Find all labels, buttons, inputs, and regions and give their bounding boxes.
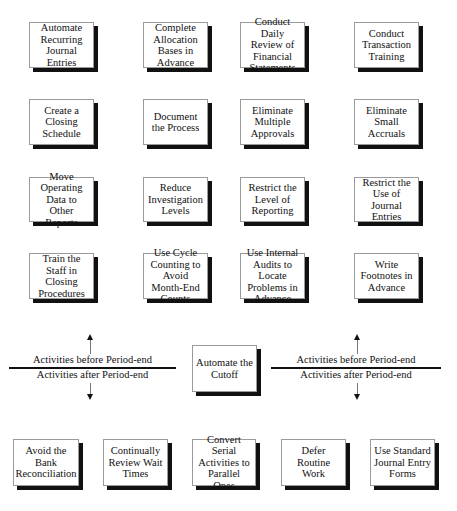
box-label: Write Footnotes in Advance [358, 259, 415, 294]
box-use-cycle-counting: Use Cycle Counting to Avoid Month-End Co… [143, 253, 208, 299]
arrow-up-icon [87, 334, 93, 340]
box-create-closing-schedule: Create a Closing Schedule [29, 99, 94, 145]
box-label: Reduce Investigation Levels [147, 182, 204, 217]
box-move-operating-data: Move Operating Data to Other Reports [29, 177, 94, 222]
box-eliminate-multiple-approvals: Eliminate Multiple Approvals [240, 99, 305, 145]
box-label: Automate Recurring Journal Entries [33, 22, 90, 68]
box-automate-recurring-journal-entries: Automate Recurring Journal Entries [29, 22, 94, 68]
box-conduct-daily-review: Conduct Daily Review of Financial Statem… [240, 22, 305, 68]
box-train-the-staff: Train the Staff in Closing Procedures [29, 253, 94, 299]
box-label: Restrict the Level of Reporting [244, 182, 301, 217]
box-write-footnotes: Write Footnotes in Advance [354, 253, 419, 299]
box-use-internal-audits: Use Internal Audits to Locate Problems i… [240, 253, 305, 299]
left-before-label: Activities before Period-end [9, 354, 176, 365]
box-complete-allocation-bases: Complete Allocation Bases in Advance [143, 22, 208, 68]
box-label: Continually Review Wait Times [107, 445, 164, 480]
box-restrict-use-of-journal-entries: Restrict the Use of Journal Entries [354, 177, 419, 222]
box-continually-review-wait-times: Continually Review Wait Times [103, 439, 168, 486]
box-label: Defer Routine Work [285, 445, 342, 480]
arrow-up-icon [354, 334, 360, 340]
box-label: Move Operating Data to Other Reports [33, 171, 90, 229]
box-label: Avoid the Bank Reconciliation [15, 445, 76, 480]
box-label: Use Cycle Counting to Avoid Month-End Co… [147, 247, 204, 305]
box-label: Document the Process [147, 111, 204, 134]
box-label: Create a Closing Schedule [33, 105, 90, 140]
box-document-the-process: Document the Process [143, 99, 208, 145]
right-after-label: Activities after Period-end [271, 369, 441, 380]
box-convert-serial-activities: Convert Serial Activities to Parallel On… [192, 439, 256, 486]
box-eliminate-small-accruals: Eliminate Small Accruals [354, 99, 419, 145]
box-use-standard-journal-entry-forms: Use Standard Journal Entry Forms [370, 439, 435, 486]
right-before-label: Activities before Period-end [271, 354, 441, 365]
box-label: Eliminate Multiple Approvals [244, 105, 301, 140]
box-label: Conduct Transaction Training [358, 28, 415, 63]
box-label: Restrict the Use of Journal Entries [358, 177, 415, 223]
box-defer-routine-work: Defer Routine Work [281, 439, 346, 486]
left-arrow-up-shaft [90, 338, 91, 354]
box-automate-the-cutoff: Automate the Cutoff [192, 345, 257, 392]
box-avoid-bank-reconciliation: Avoid the Bank Reconciliation [13, 439, 79, 486]
box-label: Conduct Daily Review of Financial Statem… [244, 16, 301, 74]
box-restrict-level-of-reporting: Restrict the Level of Reporting [240, 177, 305, 222]
arrow-down-icon [354, 394, 360, 400]
arrow-down-icon [87, 394, 93, 400]
box-conduct-transaction-training: Conduct Transaction Training [354, 22, 419, 68]
left-after-label: Activities after Period-end [9, 369, 176, 380]
box-label: Complete Allocation Bases in Advance [147, 22, 204, 68]
right-arrow-up-shaft [357, 338, 358, 354]
box-label: Automate the Cutoff [196, 357, 253, 380]
box-label: Use Standard Journal Entry Forms [374, 445, 431, 480]
box-label: Convert Serial Activities to Parallel On… [196, 434, 252, 492]
box-reduce-investigation-levels: Reduce Investigation Levels [143, 177, 208, 222]
box-label: Train the Staff in Closing Procedures [33, 253, 90, 299]
box-label: Use Internal Audits to Locate Problems i… [244, 247, 301, 305]
box-label: Eliminate Small Accruals [358, 105, 415, 140]
